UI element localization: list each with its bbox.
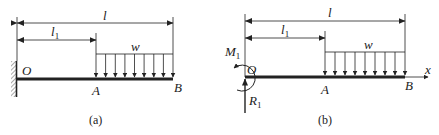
label-a: A bbox=[91, 83, 100, 98]
label-l1: l1 bbox=[51, 24, 59, 41]
fixed-wall-support bbox=[11, 61, 17, 97]
label-x-axis: x bbox=[424, 62, 431, 77]
figure-a: l l1 w O A B (a) bbox=[11, 8, 182, 127]
label-b: B bbox=[405, 78, 413, 93]
label-r1: R1 bbox=[248, 93, 261, 110]
label-l1: l1 bbox=[281, 22, 289, 39]
label-b: B bbox=[174, 80, 182, 95]
label-l: l bbox=[103, 8, 107, 23]
label-o: O bbox=[247, 62, 257, 77]
beam-diagrams: l l1 w O A B (a) bbox=[0, 0, 439, 135]
label-m1: M1 bbox=[224, 44, 240, 61]
label-l: l bbox=[328, 5, 332, 20]
label-a: A bbox=[320, 82, 329, 97]
label-w: w bbox=[364, 37, 373, 52]
label-o: O bbox=[22, 63, 32, 78]
distributed-load bbox=[96, 54, 173, 77]
distributed-load bbox=[325, 52, 405, 75]
label-w: w bbox=[131, 39, 140, 54]
caption-a: (a) bbox=[89, 113, 102, 127]
caption-b: (b) bbox=[318, 113, 332, 127]
figure-b: l l1 w O A B x M1 R1 (b) bbox=[224, 5, 431, 127]
